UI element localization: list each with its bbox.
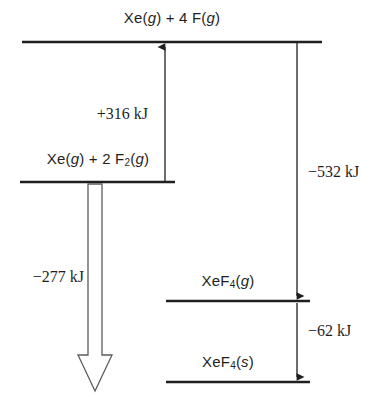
level-label-xe-plus-2f2: Xe(g) + 2 F2(g) bbox=[47, 150, 149, 168]
transition-arrow-formation-solid bbox=[78, 184, 112, 391]
level-label-second-pre: Xe( bbox=[47, 150, 71, 167]
level-label-second-post: ) bbox=[144, 150, 149, 167]
level-label-xef4s-state: s bbox=[241, 353, 249, 370]
energy-label-formation-solid: −277 kJ bbox=[2, 268, 84, 286]
level-label-top-pre: Xe( bbox=[124, 9, 148, 26]
level-label-xef4-s: XeF4(s) bbox=[202, 353, 254, 371]
energy-level-diagram bbox=[0, 0, 382, 404]
level-label-top-state1: g bbox=[148, 9, 157, 26]
level-label-xef4g-post: ) bbox=[249, 272, 254, 289]
energy-label-atomization: +316 kJ bbox=[55, 105, 148, 123]
level-label-top-mid: ) + 4 F( bbox=[156, 9, 206, 26]
level-label-second-state2: g bbox=[135, 150, 144, 167]
level-label-second-state1: g bbox=[71, 150, 80, 167]
energy-label-sublimation: −62 kJ bbox=[308, 322, 351, 340]
level-label-second-mid: ) + 2 F bbox=[79, 150, 124, 167]
level-label-xef4g-pre: XeF bbox=[202, 272, 230, 289]
level-label-xef4s-post: ) bbox=[249, 353, 254, 370]
level-label-xef4g-state: g bbox=[241, 272, 250, 289]
level-label-xe-plus-4f: Xe(g) + 4 F(g) bbox=[124, 9, 221, 26]
energy-label-formation-gas: −532 kJ bbox=[308, 163, 359, 181]
level-label-xef4-g: XeF4(g) bbox=[202, 272, 255, 290]
level-label-top-post: ) bbox=[215, 9, 220, 26]
level-label-xef4s-pre: XeF bbox=[202, 353, 230, 370]
